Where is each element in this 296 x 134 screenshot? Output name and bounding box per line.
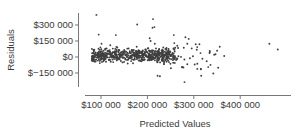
data-point bbox=[152, 18, 154, 20]
data-point bbox=[184, 81, 186, 83]
data-point bbox=[200, 52, 202, 54]
data-point bbox=[223, 55, 225, 57]
data-point bbox=[172, 52, 174, 54]
data-point bbox=[183, 59, 185, 61]
data-point bbox=[109, 44, 111, 46]
data-point bbox=[277, 49, 279, 51]
data-point bbox=[196, 49, 198, 51]
data-point bbox=[200, 75, 202, 77]
data-point bbox=[128, 48, 130, 50]
data-point bbox=[124, 59, 126, 61]
data-point bbox=[139, 51, 141, 53]
data-point bbox=[154, 51, 156, 53]
data-point bbox=[151, 56, 153, 58]
data-point bbox=[92, 52, 94, 54]
data-point bbox=[162, 51, 164, 53]
data-point bbox=[153, 26, 155, 28]
data-point bbox=[150, 40, 152, 42]
data-point bbox=[99, 60, 101, 62]
data-point bbox=[164, 59, 166, 61]
data-point bbox=[161, 50, 163, 52]
data-point bbox=[101, 53, 103, 55]
data-point bbox=[110, 55, 112, 57]
data-point bbox=[127, 53, 129, 55]
data-point bbox=[136, 24, 138, 26]
data-point bbox=[123, 49, 125, 51]
data-point bbox=[186, 43, 188, 45]
data-points bbox=[91, 14, 279, 83]
data-point bbox=[188, 38, 190, 40]
data-point bbox=[150, 50, 152, 52]
data-point bbox=[112, 61, 114, 63]
data-point bbox=[215, 53, 217, 55]
data-point bbox=[142, 49, 144, 51]
data-point bbox=[115, 53, 117, 55]
data-point bbox=[104, 52, 106, 54]
data-point bbox=[115, 52, 117, 54]
data-point bbox=[144, 54, 146, 56]
data-point bbox=[99, 49, 101, 51]
data-point bbox=[212, 73, 214, 75]
data-point bbox=[217, 67, 219, 69]
data-point bbox=[158, 50, 160, 52]
data-point bbox=[146, 56, 148, 58]
data-point bbox=[210, 64, 212, 66]
data-point bbox=[135, 50, 137, 52]
data-point bbox=[144, 51, 146, 53]
data-point bbox=[157, 61, 159, 63]
data-point bbox=[127, 56, 129, 58]
data-point bbox=[192, 55, 194, 57]
data-point bbox=[154, 59, 156, 61]
data-point bbox=[162, 59, 164, 61]
data-point bbox=[99, 46, 101, 48]
data-point bbox=[158, 58, 160, 60]
data-point bbox=[116, 47, 118, 49]
data-point bbox=[108, 59, 110, 61]
residuals-scatter-chart: $300 000$150 000$0$−150 000 $100 000$200… bbox=[0, 0, 296, 134]
data-point bbox=[175, 59, 177, 61]
data-point bbox=[123, 57, 125, 59]
data-point bbox=[117, 58, 119, 60]
x-axis-ticks: $100 000$200 000$300 000$400 000 bbox=[81, 96, 260, 111]
data-point bbox=[170, 67, 172, 69]
x-axis-title: Predicted Values bbox=[139, 118, 210, 129]
data-point bbox=[144, 58, 146, 60]
data-point bbox=[200, 68, 202, 70]
data-point bbox=[91, 48, 93, 50]
data-point bbox=[209, 51, 211, 53]
data-point bbox=[181, 66, 183, 68]
data-point bbox=[105, 61, 107, 63]
data-point bbox=[149, 37, 151, 39]
data-point bbox=[120, 60, 122, 62]
data-point bbox=[174, 51, 176, 53]
data-point bbox=[101, 61, 103, 63]
data-point bbox=[206, 60, 208, 62]
data-point bbox=[130, 60, 132, 62]
y-tick-label: $−150 000 bbox=[28, 67, 73, 78]
data-point bbox=[103, 54, 105, 56]
data-point bbox=[95, 14, 97, 16]
data-point bbox=[183, 47, 185, 49]
data-point bbox=[177, 47, 179, 49]
data-point bbox=[173, 42, 175, 44]
data-point bbox=[106, 54, 108, 56]
data-point bbox=[198, 43, 200, 45]
data-point bbox=[127, 59, 129, 61]
data-point bbox=[163, 54, 165, 56]
data-point bbox=[104, 56, 106, 58]
data-point bbox=[169, 63, 171, 65]
data-point bbox=[110, 61, 112, 63]
data-point bbox=[164, 48, 166, 50]
data-point bbox=[106, 56, 108, 58]
data-point bbox=[98, 52, 100, 54]
data-point bbox=[132, 62, 134, 64]
data-point bbox=[268, 43, 270, 45]
x-tick-label: $200 000 bbox=[128, 99, 168, 110]
data-point bbox=[165, 54, 167, 56]
data-point bbox=[148, 53, 150, 55]
data-point bbox=[196, 68, 198, 70]
data-point bbox=[104, 48, 106, 50]
y-tick-label: $150 000 bbox=[33, 35, 73, 46]
data-point bbox=[167, 50, 169, 52]
data-point bbox=[141, 59, 143, 61]
